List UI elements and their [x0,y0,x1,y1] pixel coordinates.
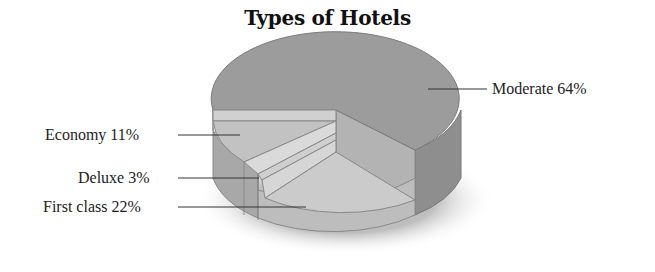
label-deluxe: Deluxe 3% [78,169,150,187]
label-first-class: First class 22% [43,198,141,216]
label-economy: Economy 11% [45,126,139,144]
slice-economy-edge [213,110,336,121]
label-moderate: Moderate 64% [492,80,587,98]
